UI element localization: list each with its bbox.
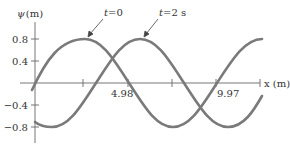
ytick-0.4: 0.4: [12, 56, 28, 67]
annotation-t0: t=0: [104, 7, 123, 18]
wave-chart: ψ(m) 0.8 0.4 −0.4 −0.8 4.98 9.97 x (m) t…: [0, 0, 290, 148]
ytick-neg-0.4: −0.4: [4, 100, 28, 111]
ytick-neg-0.8: −0.8: [4, 122, 28, 133]
xtick-4.98: 4.98: [111, 88, 133, 99]
annotation-t2: t=2 s: [159, 7, 186, 18]
y-axis-label: ψ(m): [17, 8, 43, 19]
xtick-9.97: 9.97: [217, 88, 239, 99]
x-axis-label: x (m): [264, 78, 290, 89]
annotation-arrows: [88, 19, 158, 37]
ytick-0.8: 0.8: [12, 34, 28, 45]
